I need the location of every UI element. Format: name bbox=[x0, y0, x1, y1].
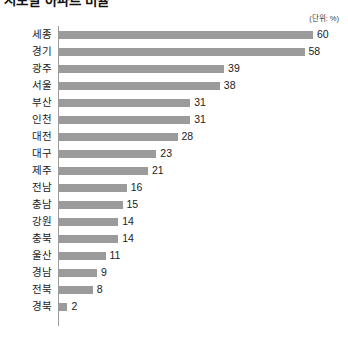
bar-value-label: 8 bbox=[97, 281, 103, 298]
bar-value-label: 60 bbox=[317, 26, 329, 43]
bar-value-label: 2 bbox=[71, 298, 77, 315]
bar-value-label: 31 bbox=[194, 94, 206, 111]
bar-value-label: 21 bbox=[152, 162, 164, 179]
bar-category-label: 경북 bbox=[0, 298, 52, 315]
bar bbox=[59, 82, 220, 90]
bar bbox=[59, 269, 97, 277]
bar bbox=[59, 99, 190, 107]
bar-value-label: 58 bbox=[309, 43, 321, 60]
bar-value-label: 15 bbox=[127, 196, 139, 213]
bar-row: 대전28 bbox=[0, 128, 348, 145]
bar-row: 충남15 bbox=[0, 196, 348, 213]
bar-value-label: 9 bbox=[101, 264, 107, 281]
chart-figure: 시도별 아파트 비율 (단위: %) 세종60경기58광주39서울38부산31인… bbox=[0, 0, 348, 348]
bar-value-label: 23 bbox=[160, 145, 172, 162]
bar-value-label: 11 bbox=[110, 247, 121, 264]
bar-category-label: 경기 bbox=[0, 43, 52, 60]
bar bbox=[59, 31, 313, 39]
bar bbox=[59, 201, 123, 209]
unit-label: (단위: %) bbox=[309, 12, 339, 23]
bar bbox=[59, 184, 127, 192]
bar-category-label: 강원 bbox=[0, 213, 52, 230]
bar-category-label: 대전 bbox=[0, 128, 52, 145]
bar bbox=[59, 303, 67, 311]
bar bbox=[59, 286, 93, 294]
bar-value-label: 39 bbox=[228, 60, 240, 77]
bar-row: 인천31 bbox=[0, 111, 348, 128]
bar-row: 경북2 bbox=[0, 298, 348, 315]
plot-area: 세종60경기58광주39서울38부산31인천31대전28대구23제주21전남16… bbox=[0, 24, 348, 336]
bar-category-label: 부산 bbox=[0, 94, 52, 111]
bar-category-label: 전남 bbox=[0, 179, 52, 196]
bar-category-label: 세종 bbox=[0, 26, 52, 43]
bar-category-label: 대구 bbox=[0, 145, 52, 162]
bar bbox=[59, 65, 224, 73]
bar-value-label: 14 bbox=[122, 230, 134, 247]
bar-row: 부산31 bbox=[0, 94, 348, 111]
bar-value-label: 31 bbox=[194, 111, 206, 128]
bar bbox=[59, 48, 305, 56]
bar-category-label: 울산 bbox=[0, 247, 52, 264]
bar-row: 대구23 bbox=[0, 145, 348, 162]
bar-category-label: 인천 bbox=[0, 111, 52, 128]
bar-category-label: 전북 bbox=[0, 281, 52, 298]
bar bbox=[59, 218, 118, 226]
bar bbox=[59, 167, 148, 175]
bar bbox=[59, 150, 156, 158]
bar bbox=[59, 252, 106, 260]
chart-title-strip: 시도별 아파트 비율 bbox=[0, 0, 348, 9]
bar-row: 경남9 bbox=[0, 264, 348, 281]
bar-category-label: 충남 bbox=[0, 196, 52, 213]
bar-row: 경기58 bbox=[0, 43, 348, 60]
bar-row: 충북14 bbox=[0, 230, 348, 247]
bar-category-label: 광주 bbox=[0, 60, 52, 77]
bar bbox=[59, 133, 178, 141]
bar-row: 강원14 bbox=[0, 213, 348, 230]
bar-value-label: 28 bbox=[182, 128, 194, 145]
page-title: 시도별 아파트 비율 bbox=[4, 0, 110, 9]
bar-row: 울산11 bbox=[0, 247, 348, 264]
bar-category-label: 경남 bbox=[0, 264, 52, 281]
bar-category-label: 충북 bbox=[0, 230, 52, 247]
bar-row: 전북8 bbox=[0, 281, 348, 298]
bar-category-label: 서울 bbox=[0, 77, 52, 94]
bar-value-label: 14 bbox=[122, 213, 134, 230]
bar-row: 세종60 bbox=[0, 26, 348, 43]
bar-row: 전남16 bbox=[0, 179, 348, 196]
bar-value-label: 38 bbox=[224, 77, 236, 94]
bar-category-label: 제주 bbox=[0, 162, 52, 179]
bar-row: 서울38 bbox=[0, 77, 348, 94]
bar-value-label: 16 bbox=[131, 179, 143, 196]
bar bbox=[59, 116, 190, 124]
bar bbox=[59, 235, 118, 243]
bar-row: 제주21 bbox=[0, 162, 348, 179]
bar-row: 광주39 bbox=[0, 60, 348, 77]
